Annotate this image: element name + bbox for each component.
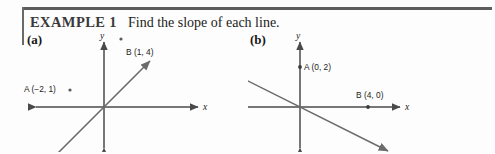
example-prompt-text: Find the slope of each line.	[128, 15, 280, 30]
point-b-A	[298, 65, 302, 69]
point-label-a-B: B (1, 4)	[126, 47, 154, 57]
x-axis-label-a: x	[202, 102, 208, 112]
point-label-b-B: B (4, 0)	[356, 90, 384, 100]
x-axis-label-b: x	[404, 102, 410, 112]
coordinate-plane-b: y x A (0, 2) B (4, 0)	[248, 30, 488, 152]
point-a-A	[68, 88, 71, 91]
y-axis-label-a: y	[99, 31, 105, 41]
point-b-B	[366, 105, 370, 109]
point-a-B	[119, 37, 122, 40]
example-number-label: EXAMPLE 1	[30, 14, 117, 30]
point-label-b-A: A (0, 2)	[304, 62, 331, 72]
textbook-example-page: EXAMPLE 1Find the slope of each line. (a…	[0, 0, 495, 154]
example-header: EXAMPLE 1Find the slope of each line.	[30, 13, 280, 31]
header-rule-top	[22, 7, 492, 10]
graph-part-b: y x A (0, 2) B (4, 0)	[248, 30, 488, 152]
graph-part-a: y x A (−2, 1) B (1, 4)	[22, 30, 242, 152]
point-label-a-A: A (−2, 1)	[24, 84, 56, 94]
coordinate-plane-a: y x A (−2, 1) B (1, 4)	[22, 30, 242, 152]
graph-line-b	[248, 70, 388, 151]
y-axis-label-b: y	[295, 31, 301, 41]
